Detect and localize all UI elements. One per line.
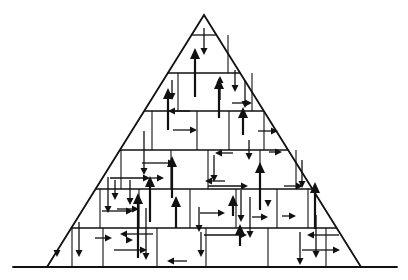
arrow-icon [282, 213, 296, 220]
arrow-icon [112, 180, 119, 200]
arrow-icon [200, 210, 225, 217]
arrow-icon [307, 232, 339, 239]
arrow-icon [214, 78, 224, 118]
pyramid-diagram [0, 0, 408, 280]
arrow-icon [265, 200, 272, 207]
arrow-icon [141, 131, 148, 175]
arrow-icon [76, 222, 83, 257]
arrow-icon [167, 258, 187, 265]
pyramid-canvas [0, 0, 408, 280]
arrow-icon [201, 28, 208, 55]
arrow-icon [238, 190, 245, 222]
arrow-icon [142, 160, 175, 167]
arrow-icon [204, 232, 247, 239]
arrow-icon [114, 247, 147, 254]
arrow-icon [232, 100, 252, 107]
arrow-icon [105, 177, 112, 213]
arrow-icon [168, 108, 190, 115]
arrow-icon [198, 232, 205, 257]
arrow-icon [150, 175, 164, 182]
arrow-icon [120, 231, 153, 238]
arrow-icon [173, 127, 197, 134]
block-courses [71, 35, 336, 228]
arrow-icon [299, 160, 306, 188]
arrow-icon [297, 232, 304, 265]
arrow-icon [255, 162, 265, 210]
arrow-icon [127, 180, 134, 205]
arrow-icon [171, 196, 181, 228]
arrow-icon [302, 247, 340, 254]
arrow-icon [126, 237, 133, 244]
arrow-icon [252, 214, 268, 221]
